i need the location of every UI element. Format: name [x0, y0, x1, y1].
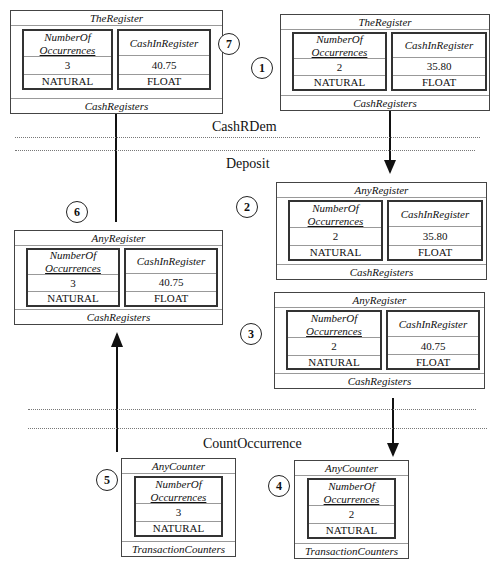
- field-number-of-occurrences: NumberOfOccurrences 2 NATURAL: [307, 478, 396, 539]
- step-6-badge: 6: [66, 201, 88, 223]
- field-value: 2: [309, 506, 394, 524]
- step-7-badge: 7: [218, 33, 240, 55]
- field-name: NumberOf: [311, 312, 357, 325]
- object-class: TransactionCounters: [122, 541, 235, 556]
- field-name: NumberOf: [44, 31, 90, 44]
- field-type: NATURAL: [288, 356, 380, 368]
- step-1-badge: 1: [251, 57, 273, 79]
- step-4-badge: 4: [268, 475, 290, 497]
- field-name: NumberOf: [316, 33, 362, 46]
- object-class: CashRegisters: [275, 373, 484, 388]
- field-type: NATURAL: [136, 522, 221, 535]
- field-number-of-occurrences: NumberOfOccurrences 2 NATURAL: [292, 32, 387, 91]
- object-title: AnyRegister: [275, 293, 484, 308]
- field-type: FLOAT: [388, 355, 478, 368]
- object-anycounter-step5: AnyCounter NumberOfOccurrences 3 NATURAL…: [121, 458, 236, 557]
- object-title: AnyRegister: [277, 183, 486, 198]
- field-name: CashInRegister: [126, 250, 216, 274]
- field-name-2: Occurrences: [151, 491, 207, 504]
- field-value: 2: [290, 228, 381, 246]
- field-value: 40.75: [388, 337, 478, 355]
- field-number-of-occurrences: NumberOfOccurrences 2 NATURAL: [288, 200, 383, 261]
- field-type: NATURAL: [294, 76, 385, 89]
- field-value: 3: [136, 504, 221, 522]
- object-title: TheRegister: [281, 15, 489, 30]
- separator-top-1: [15, 137, 480, 138]
- field-value: 3: [24, 57, 111, 75]
- field-type: FLOAT: [119, 75, 209, 89]
- object-title: AnyCounter: [122, 459, 235, 474]
- step-3-badge: 3: [240, 323, 262, 345]
- field-name: NumberOf: [328, 480, 374, 493]
- field-name-2: Occurrences: [40, 44, 96, 57]
- field-value: 3: [28, 275, 118, 292]
- step-2-badge: 2: [236, 196, 258, 218]
- field-type: NATURAL: [290, 246, 381, 259]
- field-type: NATURAL: [309, 524, 394, 537]
- field-name-2: Occurrences: [312, 46, 368, 59]
- object-title: TheRegister: [11, 11, 222, 26]
- field-cash-in-register: CashInRegister 35.80 FLOAT: [387, 200, 483, 261]
- field-type: NATURAL: [24, 75, 111, 88]
- field-number-of-occurrences: NumberOfOccurrences 3 NATURAL: [22, 29, 113, 90]
- operation-label-cashrdem: CashRDem: [212, 119, 277, 135]
- field-value: 2: [288, 338, 380, 356]
- field-value: 35.80: [393, 58, 485, 75]
- field-value: 2: [294, 59, 385, 76]
- object-class: CashRegisters: [11, 98, 222, 113]
- field-name-2: Occurrences: [306, 325, 362, 338]
- object-class: CashRegisters: [277, 264, 486, 279]
- operation-label-deposit: Deposit: [226, 156, 270, 172]
- object-title: AnyRegister: [15, 231, 222, 246]
- field-cash-in-register: CashInRegister 40.75 FLOAT: [386, 310, 480, 370]
- separator-top-2: [15, 150, 475, 151]
- step-5-badge: 5: [96, 469, 118, 491]
- object-theregister-step7: TheRegister NumberOfOccurrences 3 NATURA…: [10, 10, 223, 114]
- field-name: CashInRegister: [389, 202, 481, 227]
- object-theregister-step1: TheRegister NumberOfOccurrences 2 NATURA…: [280, 14, 490, 111]
- separator-bottom-2: [28, 428, 487, 429]
- object-class: CashRegisters: [281, 95, 489, 110]
- object-anyregister-step3: AnyRegister NumberOfOccurrences 2 NATURA…: [274, 292, 485, 389]
- field-value: 40.75: [126, 274, 216, 291]
- field-type: FLOAT: [393, 76, 485, 89]
- field-cash-in-register: CashInRegister 40.75 FLOAT: [124, 248, 218, 307]
- object-class: TransactionCounters: [295, 543, 408, 558]
- separator-bottom-1: [28, 409, 476, 410]
- operation-label-countoccurrence: CountOccurrence: [203, 436, 302, 452]
- field-type: FLOAT: [126, 292, 216, 305]
- field-number-of-occurrences: NumberOfOccurrences 3 NATURAL: [134, 476, 223, 537]
- field-name-2: Occurrences: [45, 262, 101, 275]
- object-class: CashRegisters: [15, 309, 222, 324]
- field-value: 40.75: [119, 56, 209, 74]
- field-type: FLOAT: [389, 246, 481, 260]
- field-name: NumberOf: [312, 202, 358, 215]
- field-name: NumberOf: [155, 478, 201, 491]
- field-value: 35.80: [389, 227, 481, 245]
- field-cash-in-register: CashInRegister 35.80 FLOAT: [391, 32, 487, 91]
- field-cash-in-register: CashInRegister 40.75 FLOAT: [117, 29, 211, 90]
- field-name-2: Occurrences: [324, 493, 380, 506]
- field-number-of-occurrences: NumberOfOccurrences 3 NATURAL: [26, 248, 120, 307]
- field-name: CashInRegister: [393, 34, 485, 58]
- object-anyregister-step6: AnyRegister NumberOfOccurrences 3 NATURA…: [14, 230, 223, 325]
- field-name: CashInRegister: [119, 31, 209, 56]
- object-anycounter-step4: AnyCounter NumberOfOccurrences 2 NATURAL…: [294, 460, 409, 559]
- field-name-2: Occurrences: [308, 215, 364, 228]
- field-name: CashInRegister: [388, 312, 478, 337]
- field-type: NATURAL: [28, 292, 118, 305]
- field-name: NumberOf: [50, 249, 96, 262]
- object-anyregister-step2: AnyRegister NumberOfOccurrences 2 NATURA…: [276, 182, 487, 280]
- field-number-of-occurrences: NumberOfOccurrences 2 NATURAL: [286, 310, 382, 370]
- object-title: AnyCounter: [295, 461, 408, 476]
